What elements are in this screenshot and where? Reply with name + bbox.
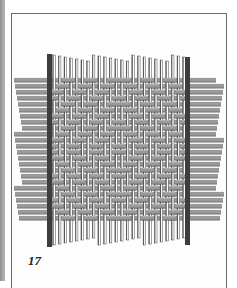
figure-number: 17	[28, 253, 41, 269]
